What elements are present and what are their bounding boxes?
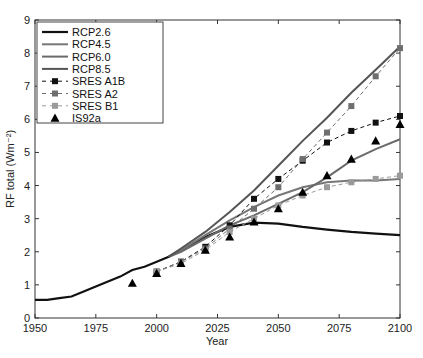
y-tick-label: 6 <box>24 113 30 125</box>
y-tick-label: 1 <box>24 279 30 291</box>
legend-label: RCP4.5 <box>72 38 111 50</box>
x-tick-label: 2050 <box>266 322 290 334</box>
y-tick-label: 0 <box>24 312 30 324</box>
y-tick-label: 7 <box>24 80 30 92</box>
x-axis-label: Year <box>206 335 229 347</box>
y-tick-label: 5 <box>24 146 30 158</box>
legend-label: RCP6.0 <box>72 51 111 63</box>
x-tick-label: 2025 <box>205 322 229 334</box>
legend-label: RCP2.6 <box>72 26 111 38</box>
x-tick-label: 2100 <box>388 322 412 334</box>
y-tick-label: 3 <box>24 213 30 225</box>
legend-label: SRES B1 <box>72 100 118 112</box>
y-tick-label: 8 <box>24 47 30 59</box>
x-tick-label: 2075 <box>327 322 351 334</box>
y-axis-label: RF total (Wm⁻²) <box>4 130 16 208</box>
rf-chart: 19501975200020252050207521000123456789 R… <box>0 0 423 358</box>
legend-label: IS92a <box>72 112 102 124</box>
x-tick-label: 1975 <box>84 322 108 334</box>
legend-label: RCP8.5 <box>72 63 111 75</box>
y-tick-label: 9 <box>24 14 30 26</box>
y-tick-label: 4 <box>24 180 30 192</box>
legend-label: SRES A2 <box>72 88 118 100</box>
legend: RCP2.6RCP4.5RCP6.0RCP8.5SRES A1BSRES A2S… <box>37 22 163 124</box>
legend-label: SRES A1B <box>72 75 125 87</box>
x-tick-label: 2000 <box>144 322 168 334</box>
y-tick-label: 2 <box>24 246 30 258</box>
